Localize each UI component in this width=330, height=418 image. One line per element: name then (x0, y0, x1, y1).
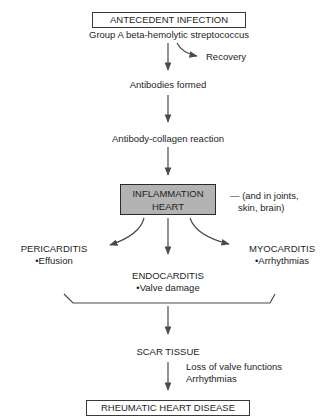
scar-note: Loss of valve functions Arrhythmias (186, 361, 282, 385)
pathogen-label: Group A beta-hemolytic streptococcus (70, 29, 268, 40)
myocarditis-node: MYOCARDITIS •Arrhythmias (242, 243, 322, 267)
scar-tissue-label: SCAR TISSUE (118, 346, 218, 357)
endocarditis-bullet: •Valve damage (118, 282, 218, 294)
rheumatic-heart-disease-box: RHEUMATIC HEART DISEASE (86, 400, 250, 416)
pericarditis-bullet: •Effusion (14, 255, 94, 267)
antibody-collagen-reaction-label: Antibody-collagen reaction (90, 133, 246, 144)
inflammation-note-line2: skin, brain) (230, 202, 299, 214)
endocarditis-node: ENDOCARDITIS •Valve damage (118, 270, 218, 294)
antibodies-formed-label: Antibodies formed (100, 79, 236, 90)
scar-note-line2: Arrhythmias (186, 373, 282, 385)
inflammation-note-line1: — (and in joints, (230, 190, 299, 202)
antecedent-infection-label: ANTECEDENT INFECTION (110, 14, 228, 25)
heart-label: HEART (121, 200, 215, 213)
inflammation-label: INFLAMMATION (121, 187, 215, 200)
scar-note-line1: Loss of valve functions (186, 361, 282, 373)
pericarditis-node: PERICARDITIS •Effusion (14, 243, 94, 267)
rheumatic-heart-disease-label: RHEUMATIC HEART DISEASE (101, 402, 235, 413)
endocarditis-label: ENDOCARDITIS (118, 270, 218, 282)
antecedent-infection-box: ANTECEDENT INFECTION (92, 12, 246, 28)
inflammation-heart-box: INFLAMMATION HEART (120, 184, 216, 215)
myocarditis-label: MYOCARDITIS (242, 243, 322, 255)
myocarditis-bullet: •Arrhythmias (242, 255, 322, 267)
arrow-recovery (177, 43, 197, 56)
pericarditis-label: PERICARDITIS (14, 243, 94, 255)
bracket (64, 294, 275, 303)
arrow-inflammation-pericarditis (110, 218, 144, 245)
inflammation-note: — (and in joints, skin, brain) (230, 190, 299, 214)
recovery-label: Recovery (206, 51, 246, 62)
arrow-inflammation-myocarditis (190, 218, 229, 244)
